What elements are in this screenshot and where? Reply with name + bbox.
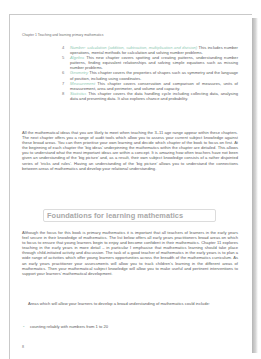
chapter-list-item: 5Algebra This new chapter covers spottin… (62, 55, 238, 70)
chapter-list-item: 6Geometry This chapter covers the proper… (62, 70, 238, 80)
list-number: 7 (62, 81, 64, 86)
list-number: 6 (62, 70, 64, 75)
body-paragraph: All the mathematical ideas that you are … (22, 130, 238, 171)
page-number: 8 (22, 345, 24, 349)
body-paragraph: Areas which will allow your learners to … (22, 301, 238, 306)
chapter-list-item: 7Measurement This chapter covers conserv… (62, 81, 238, 91)
chapter-description: This chapter covers the properties of sh… (70, 70, 238, 80)
page-shadow (252, 18, 258, 353)
chapter-list-item: 4Number: calculation (addition, subtract… (62, 45, 238, 55)
list-number: 4 (62, 45, 64, 50)
chapter-list-item: 8Statistics This chapter covers the data… (62, 91, 238, 101)
bullet-list: •counting reliably with numbers from 1 t… (22, 324, 238, 329)
running-head: Chapter 1 Teaching and learning primary … (22, 33, 103, 37)
chapter-description: This chapter covers the data handling cy… (70, 91, 238, 101)
chapter-description: This chapter covers conservation and com… (70, 81, 238, 91)
bullet-text: counting reliably with numbers from 1 to… (30, 324, 108, 329)
list-number: 8 (62, 91, 64, 96)
bullet-icon: • (23, 324, 24, 329)
list-number: 5 (62, 55, 64, 60)
chapter-description: This new chapter covers spotting and cre… (70, 55, 238, 70)
bullet-list-item: •counting reliably with numbers from 1 t… (22, 324, 238, 329)
section-heading-box: Foundations for learning mathematics (43, 209, 216, 222)
section-heading: Foundations for learning mathematics (47, 211, 183, 220)
chapter-list: 4Number: calculation (addition, subtract… (62, 45, 238, 101)
body-paragraph: Although the focus for this book is prim… (22, 230, 238, 276)
